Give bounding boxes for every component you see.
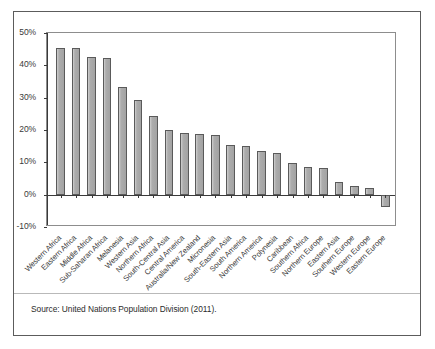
y-tick-label: -10% — [17, 221, 36, 231]
x-tick-mark — [153, 195, 154, 198]
y-axis-line — [47, 33, 48, 225]
x-tick-mark — [123, 195, 124, 198]
plot-area — [47, 33, 395, 225]
x-tick-mark — [308, 195, 309, 198]
x-tick-mark — [215, 195, 216, 198]
x-tick-mark — [231, 195, 232, 198]
bar — [273, 153, 282, 195]
source-divider — [14, 293, 420, 294]
plot-frame — [46, 32, 396, 226]
y-tick-label: 0% — [24, 189, 36, 199]
x-tick-mark — [277, 195, 278, 198]
x-tick-mark — [107, 195, 108, 198]
x-tick-mark — [354, 195, 355, 198]
x-tick-mark — [169, 195, 170, 198]
x-tick-mark — [76, 195, 77, 198]
zero-axis-line — [47, 195, 395, 196]
y-tick-mark — [44, 65, 47, 66]
y-axis-tick-labels: -10%0%10%20%30%40%50% — [11, 32, 40, 226]
bar — [87, 57, 96, 195]
source-note: Source: United Nations Population Divisi… — [31, 304, 216, 314]
x-tick-mark — [339, 195, 340, 198]
x-tick-mark — [184, 195, 185, 198]
y-tick-label: 50% — [19, 27, 36, 37]
y-tick-mark — [44, 130, 47, 131]
x-tick-mark — [262, 195, 263, 198]
bar — [288, 163, 297, 195]
bar — [211, 135, 220, 194]
y-tick-label: 10% — [19, 156, 36, 166]
y-tick-label: 20% — [19, 124, 36, 134]
y-tick-label: 30% — [19, 92, 36, 102]
y-tick-mark — [44, 195, 47, 196]
bar — [257, 151, 266, 195]
y-tick-mark — [44, 33, 47, 34]
bar — [195, 134, 204, 195]
y-tick-mark — [44, 98, 47, 99]
bar — [335, 182, 344, 195]
figure-container: -10%0%10%20%30%40%50% Western AfricaEast… — [13, 11, 421, 336]
bar — [180, 133, 189, 195]
bar — [365, 188, 374, 195]
y-tick-mark — [44, 227, 47, 228]
bar — [350, 186, 359, 194]
x-tick-mark — [246, 195, 247, 198]
bar — [72, 48, 81, 194]
bar — [103, 58, 112, 195]
bar — [56, 48, 65, 194]
bar — [226, 145, 235, 195]
bar — [304, 167, 313, 195]
y-tick-label: 40% — [19, 59, 36, 69]
x-tick-mark — [61, 195, 62, 198]
bar — [319, 168, 328, 195]
bar — [149, 116, 158, 195]
bar — [134, 100, 143, 194]
x-tick-mark — [370, 195, 371, 198]
x-tick-mark — [385, 195, 386, 198]
bar — [242, 146, 251, 194]
bar — [165, 130, 174, 195]
x-tick-mark — [200, 195, 201, 198]
x-tick-mark — [323, 195, 324, 198]
x-tick-mark — [138, 195, 139, 198]
y-tick-mark — [44, 162, 47, 163]
x-tick-mark — [293, 195, 294, 198]
x-tick-mark — [92, 195, 93, 198]
bar — [118, 87, 127, 195]
